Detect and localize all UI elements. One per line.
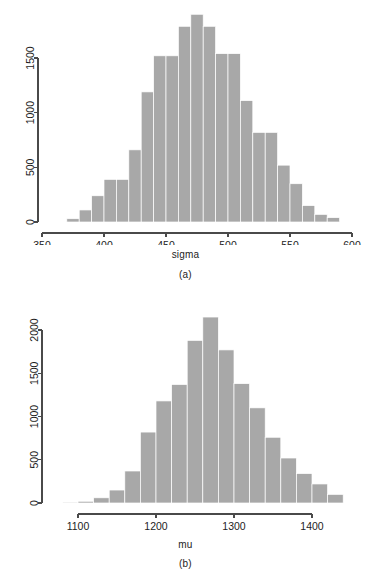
histogram-bar — [216, 54, 228, 222]
histogram-bar — [191, 14, 203, 222]
histogram-bar — [265, 437, 281, 503]
x-axis-tick-label: 1400 — [300, 520, 324, 532]
histogram-bar — [315, 214, 327, 222]
histogram-panel-sigma: 050010001500350400450500550600 sigma (a) — [0, 0, 371, 290]
histogram-bar — [141, 92, 153, 222]
y-axis-tick-label: 0 — [28, 500, 40, 506]
x-axis-title-sigma: sigma — [0, 249, 371, 260]
histogram-bar — [278, 165, 290, 222]
histogram-bar — [328, 494, 344, 503]
histogram-bar — [203, 317, 219, 503]
histogram-bar — [94, 498, 110, 503]
histogram-bar — [140, 432, 156, 503]
y-axis-tick-label: 1000 — [24, 101, 36, 125]
histogram-bar — [104, 179, 116, 222]
x-axis-tick-label: 550 — [281, 239, 299, 245]
histogram-panel-mu: 05001000150020001100120013001400 mu (b) — [0, 290, 371, 577]
histogram-bar — [78, 501, 94, 503]
plot-area-mu: 05001000150020001100120013001400 — [0, 290, 371, 535]
histogram-bar — [156, 401, 172, 503]
histogram-bar — [312, 484, 328, 503]
histogram-bar — [178, 26, 190, 222]
y-axis-tick-label: 1500 — [24, 46, 36, 70]
histogram-bar — [265, 132, 277, 222]
y-axis-tick-label: 1500 — [28, 361, 40, 385]
histogram-bar — [234, 384, 250, 503]
y-axis: 0500100015002000 — [28, 318, 42, 506]
histogram-bar — [154, 56, 166, 222]
panel-caption-a: (a) — [0, 269, 371, 280]
histogram-chart-mu: 05001000150020001100120013001400 — [0, 290, 371, 535]
plot-area-sigma: 050010001500350400450500550600 — [0, 0, 371, 245]
x-axis-tick-label: 350 — [33, 239, 51, 245]
y-axis: 050010001500 — [24, 46, 38, 225]
histogram-bar — [203, 26, 215, 222]
histogram-bar — [116, 179, 128, 222]
histogram-bar — [125, 471, 141, 503]
y-axis-tick-label: 2000 — [28, 318, 40, 342]
histogram-bar — [302, 206, 314, 222]
bars-group — [67, 14, 340, 222]
histogram-bar — [62, 502, 78, 503]
panel-caption-b: (b) — [0, 558, 371, 569]
histogram-bar — [109, 490, 125, 503]
histogram-bar — [240, 101, 252, 222]
histogram-bar — [166, 56, 178, 222]
histogram-bar — [296, 474, 312, 503]
x-axis-tick-label: 600 — [343, 239, 361, 245]
histogram-bar — [79, 210, 91, 222]
x-axis-tick-label: 1200 — [144, 520, 168, 532]
x-axis-tick-label: 400 — [95, 239, 113, 245]
x-axis-title-mu: mu — [0, 539, 371, 550]
histogram-bar — [228, 54, 240, 222]
bars-group — [62, 317, 343, 503]
x-axis-tick-label: 1300 — [222, 520, 246, 532]
x-axis-tick-label: 500 — [219, 239, 237, 245]
histogram-bar — [218, 350, 234, 503]
histogram-bar — [187, 340, 203, 503]
histogram-bar — [172, 385, 188, 504]
histogram-bar — [250, 408, 266, 503]
histogram-bar — [129, 150, 141, 222]
y-axis-tick-label: 1000 — [28, 405, 40, 429]
histogram-bar — [290, 184, 302, 222]
y-axis-tick-label: 0 — [24, 219, 36, 225]
x-axis-tick-label: 450 — [157, 239, 175, 245]
histogram-bar — [253, 132, 265, 222]
histogram-bar — [327, 218, 339, 222]
x-axis-tick-label: 1100 — [67, 520, 90, 532]
y-axis-tick-label: 500 — [24, 158, 36, 176]
x-axis: 350400450500550600 — [33, 233, 361, 245]
y-axis-tick-label: 500 — [28, 451, 40, 469]
histogram-bar — [281, 458, 297, 503]
histogram-bar — [92, 196, 104, 222]
histogram-bar — [67, 219, 79, 222]
x-axis: 1100120013001400 — [67, 514, 324, 532]
histogram-chart-sigma: 050010001500350400450500550600 — [0, 0, 371, 245]
